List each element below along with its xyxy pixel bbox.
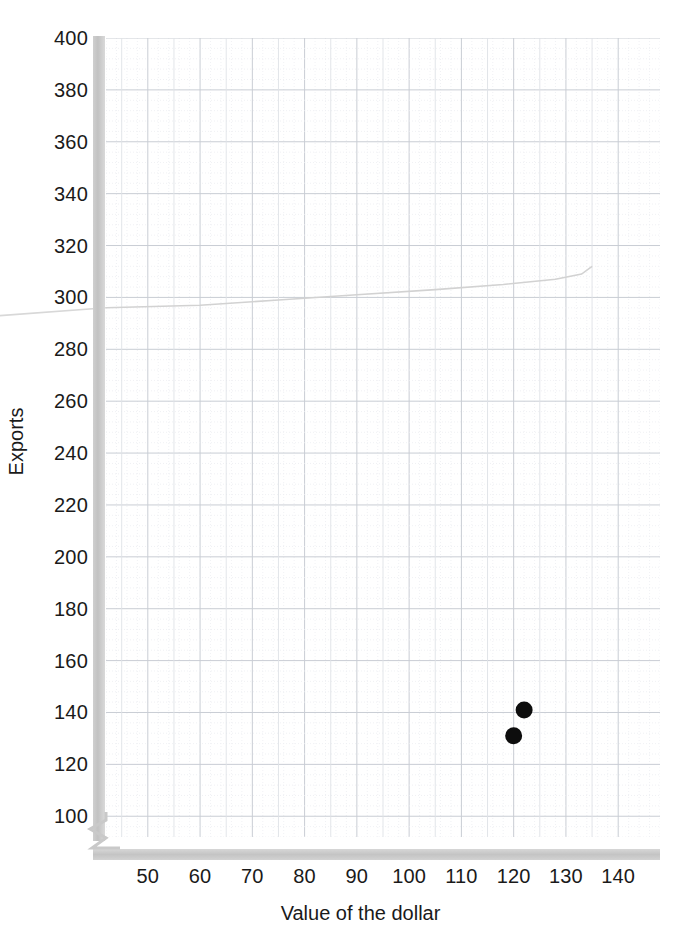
y-tick-label: 380 bbox=[22, 80, 88, 100]
data-point bbox=[516, 701, 533, 718]
y-tick-label: 140 bbox=[22, 702, 88, 722]
y-tick-label: 180 bbox=[22, 599, 88, 619]
x-tick-label: 90 bbox=[346, 866, 369, 886]
y-tick-label: 400 bbox=[22, 28, 88, 48]
y-tick-label: 120 bbox=[22, 754, 88, 774]
y-tick-label: 260 bbox=[22, 391, 88, 411]
x-tick-label: 120 bbox=[497, 866, 531, 886]
plot-area bbox=[106, 38, 660, 837]
x-tick-label: 60 bbox=[189, 866, 212, 886]
x-axis-title: Value of the dollar bbox=[0, 902, 681, 925]
y-tick-label: 100 bbox=[22, 806, 88, 826]
x-tick-label: 130 bbox=[549, 866, 583, 886]
x-tick-label: 50 bbox=[136, 866, 159, 886]
y-tick-label: 300 bbox=[22, 287, 88, 307]
y-tick-label: 220 bbox=[22, 495, 88, 515]
x-tick-label: 110 bbox=[445, 866, 478, 886]
y-tick-label: 340 bbox=[22, 184, 88, 204]
y-tick-label: 280 bbox=[22, 339, 88, 359]
y-axis-bar bbox=[93, 36, 105, 841]
x-axis-bar bbox=[93, 849, 660, 860]
data-layer bbox=[106, 38, 660, 837]
x-tick-labels: 5060708090100110120130140 bbox=[0, 866, 681, 896]
x-tick-label: 80 bbox=[293, 866, 316, 886]
y-tick-label: 240 bbox=[22, 443, 88, 463]
y-tick-label: 360 bbox=[22, 132, 88, 152]
y-tick-label: 200 bbox=[22, 547, 88, 567]
chart-figure: 1001201401601802002202402602803003203403… bbox=[0, 0, 681, 935]
supply-curve bbox=[106, 266, 592, 308]
y-axis-title: Exports bbox=[5, 382, 28, 502]
y-tick-label: 160 bbox=[22, 651, 88, 671]
data-point bbox=[505, 727, 522, 744]
x-tick-label: 100 bbox=[392, 866, 426, 886]
x-axis-title-text: Value of the dollar bbox=[241, 902, 441, 925]
x-tick-label: 70 bbox=[241, 866, 264, 886]
y-tick-label: 320 bbox=[22, 236, 88, 256]
x-tick-label: 140 bbox=[601, 866, 635, 886]
